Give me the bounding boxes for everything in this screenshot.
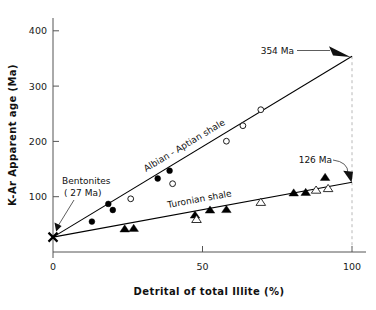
data-point (155, 176, 161, 182)
chart-figure: 400 300 200 100 0 50 100 Detrital of tot… (0, 0, 376, 310)
x-tick-label-50: 50 (196, 261, 208, 272)
y-tick-label-400: 400 (29, 25, 47, 36)
data-point (89, 219, 95, 225)
data-point (110, 207, 116, 213)
annotation-354ma-label: 354 Ma (261, 46, 294, 56)
data-point (258, 107, 264, 113)
annotation-126ma-leader (333, 160, 348, 173)
data-point (320, 173, 330, 180)
y-tick-label-300: 300 (29, 81, 47, 92)
x-ticks-group: 0 50 100 (50, 246, 361, 272)
series-label-albian-aptian: Albian - Aptian shale (142, 117, 227, 174)
x-axis-title: Detrital of total Illite (%) (134, 286, 285, 297)
annotation-bentonites-arrowhead (55, 223, 62, 232)
annotation-bentonites-leader (58, 200, 74, 226)
data-point (120, 225, 130, 232)
y-tick-label-200: 200 (29, 136, 47, 147)
data-point (170, 181, 176, 187)
data-point (129, 224, 139, 231)
series-label-turonian: Turonian shale (166, 188, 233, 210)
data-point (224, 138, 230, 144)
annotation-354ma-arrowhead (329, 46, 351, 57)
data-point (128, 196, 134, 202)
x-tick-label-0: 0 (50, 261, 56, 272)
y-ticks-group: 400 300 200 100 (29, 25, 59, 202)
annotation-bentonites-line1: Bentonites (62, 176, 111, 186)
annotation-126ma-arrowhead (343, 171, 353, 183)
annotation-126ma-label: 126 Ma (299, 155, 332, 165)
data-point (105, 201, 111, 207)
series-turonian-filled-points (120, 173, 330, 232)
series-albian-aptian-open-points (128, 107, 264, 202)
annotation-354ma: 354 Ma (261, 46, 351, 57)
data-point (323, 184, 333, 191)
annotation-bentonites: Bentonites ( 27 Ma) (55, 176, 111, 232)
x-tick-label-100: 100 (343, 261, 361, 272)
y-axis-title: K-Ar Apparent age (Ma) (7, 64, 18, 206)
data-point (167, 168, 173, 174)
y-tick-label-100: 100 (29, 191, 47, 202)
annotation-bentonites-line2: ( 27 Ma) (64, 188, 101, 198)
data-point (240, 123, 246, 129)
chart-svg: 400 300 200 100 0 50 100 Detrital of tot… (0, 0, 376, 310)
